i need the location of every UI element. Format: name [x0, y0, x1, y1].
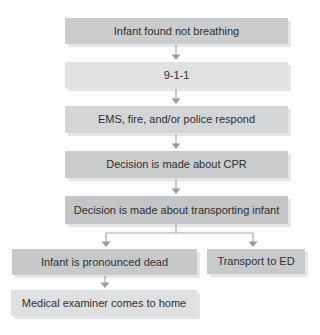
branch-connector [102, 225, 258, 248]
node-transport-to-ed: Transport to ED [207, 249, 305, 274]
arrow-ems-respond-to-cpr-decision [172, 134, 181, 149]
arrow-infant-found-to-call-911 [172, 45, 181, 60]
node-ems-fire-police-respond: EMS, fire, and/or police respond [65, 106, 288, 133]
arrow-call-911-to-ems-respond [172, 89, 181, 104]
node-transport-decision: Decision is made about transporting infa… [65, 196, 288, 224]
flowchart-canvas: Infant found not breathing 9-1-1 EMS, fi… [0, 0, 320, 335]
node-infant-found-not-breathing: Infant found not breathing [65, 18, 288, 44]
node-cpr-decision: Decision is made about CPR [65, 151, 288, 178]
arrow-pronounced-dead-to-medical-examiner [101, 276, 110, 288]
node-medical-examiner-home: Medical examiner comes to home [11, 290, 197, 316]
node-infant-pronounced-dead: Infant is pronounced dead [12, 249, 197, 275]
node-call-911: 9-1-1 [65, 62, 288, 88]
arrow-cpr-decision-to-transport-decision [172, 179, 181, 194]
